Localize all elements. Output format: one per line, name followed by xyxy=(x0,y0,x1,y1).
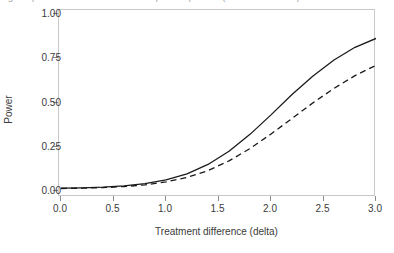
x-tick-mark xyxy=(270,196,271,201)
y-tick-label: 0.75 xyxy=(1,52,61,63)
x-tick-mark xyxy=(218,196,219,201)
y-axis-title: Power xyxy=(3,80,14,140)
x-tick-mark xyxy=(113,196,114,201)
series-dashed-line xyxy=(61,65,376,188)
x-tick-mark xyxy=(375,196,376,201)
x-tick-label: 3.0 xyxy=(353,203,394,214)
x-tick-mark xyxy=(165,196,166,201)
x-tick-label: 1.5 xyxy=(196,203,240,214)
y-tick-label: 0.25 xyxy=(1,140,61,151)
x-tick-mark xyxy=(60,196,61,201)
plot-panel xyxy=(58,9,375,196)
x-tick-label: 0.0 xyxy=(38,203,82,214)
x-tick-label: 1.0 xyxy=(143,203,187,214)
power-curve-figure: Figure: power curves for the two-sample … xyxy=(0,0,394,253)
x-tick-label: 0.5 xyxy=(91,203,135,214)
y-tick-label: 0.00 xyxy=(1,185,61,196)
x-tick-mark xyxy=(323,196,324,201)
x-axis-title: Treatment difference (delta) xyxy=(58,226,375,237)
y-tick-label: 0.50 xyxy=(1,96,61,107)
cut-off-caption-text: Figure: power curves for the two-sample … xyxy=(0,0,394,2)
x-tick-label: 2.5 xyxy=(301,203,345,214)
x-tick-label: 2.0 xyxy=(248,203,292,214)
y-tick-label: 1.00 xyxy=(1,8,61,19)
plot-area xyxy=(59,10,376,197)
